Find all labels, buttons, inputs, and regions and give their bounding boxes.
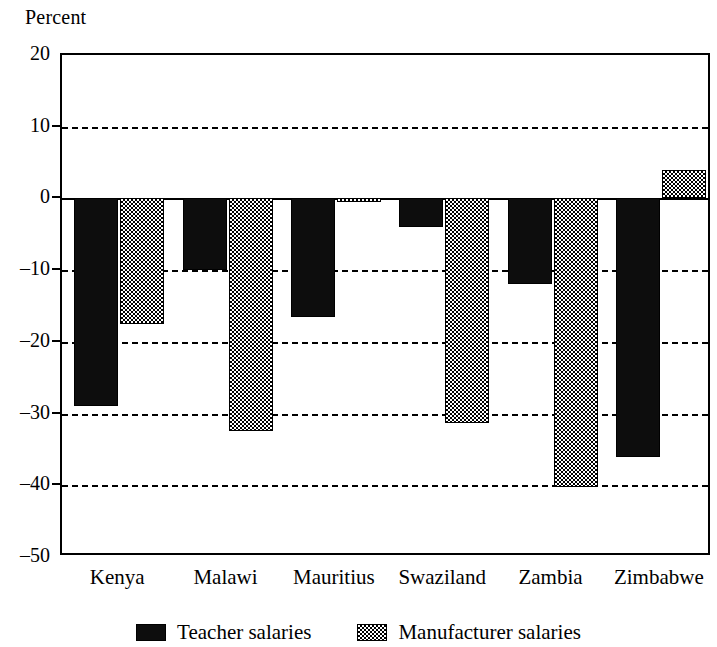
- checkered-gray-swatch: [357, 624, 387, 641]
- legend-label: Teacher salaries: [177, 620, 311, 645]
- bar-swaziland-manufacturer: [445, 198, 489, 422]
- y-tick-mark: [52, 483, 60, 485]
- y-axis-title: Percent: [25, 6, 86, 29]
- bar-malawi-manufacturer: [229, 198, 273, 431]
- y-tick-label: 0: [0, 185, 50, 208]
- y-tick-label: –10: [0, 257, 50, 280]
- y-tick-label: –20: [0, 328, 50, 351]
- y-tick-label: –30: [0, 400, 50, 423]
- bar-kenya-teacher: [74, 198, 118, 406]
- y-tick-label: –40: [0, 472, 50, 495]
- bar-zimbabwe-manufacturer: [662, 170, 706, 199]
- gridline: [62, 127, 708, 129]
- bar-mauritius-manufacturer: [337, 198, 381, 202]
- legend-item-manufacturer: Manufacturer salaries: [357, 620, 581, 645]
- gridline: [62, 485, 708, 487]
- y-tick-mark: [52, 340, 60, 342]
- bar-chart: Percent 20100–10–20–30–40–50 KenyaMalawi…: [0, 0, 717, 647]
- legend-item-teacher: Teacher salaries: [136, 620, 311, 645]
- y-tick-label: 20: [0, 42, 50, 65]
- bar-zambia-teacher: [508, 198, 552, 284]
- bar-kenya-manufacturer: [120, 198, 164, 324]
- y-tick-mark: [52, 412, 60, 414]
- y-tick-mark: [52, 268, 60, 270]
- x-label-zambia: Zambia: [518, 565, 582, 590]
- bar-zambia-manufacturer: [554, 198, 598, 486]
- x-label-malawi: Malawi: [193, 565, 257, 590]
- x-label-zimbabwe: Zimbabwe: [614, 565, 704, 590]
- plot-area: [60, 53, 710, 555]
- x-label-swaziland: Swaziland: [398, 565, 485, 590]
- y-tick-label: –50: [0, 544, 50, 567]
- chart-legend: Teacher salariesManufacturer salaries: [0, 618, 717, 647]
- y-tick-mark: [52, 196, 60, 198]
- solid-black-swatch: [136, 624, 166, 641]
- gridline: [62, 414, 708, 416]
- x-label-kenya: Kenya: [90, 565, 145, 590]
- plot-inner: [62, 55, 708, 553]
- y-tick-label: 10: [0, 113, 50, 136]
- y-tick-mark: [52, 125, 60, 127]
- bar-mauritius-teacher: [291, 198, 335, 316]
- x-label-mauritius: Mauritius: [293, 565, 375, 590]
- bar-zimbabwe-teacher: [616, 198, 660, 456]
- legend-label: Manufacturer salaries: [398, 620, 581, 645]
- gridline: [62, 342, 708, 344]
- bar-swaziland-teacher: [399, 198, 443, 227]
- bar-malawi-teacher: [183, 198, 227, 270]
